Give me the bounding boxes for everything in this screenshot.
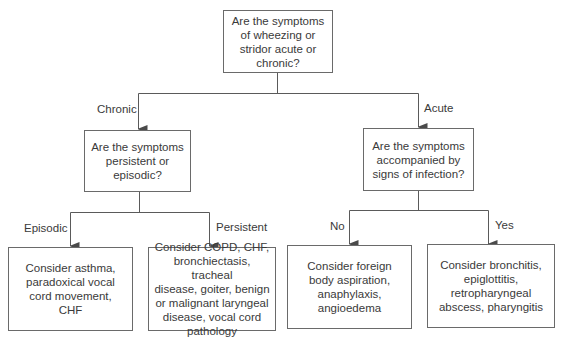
outcome-yes-infection-text: Consider bronchitis, epiglottitis, retro…	[439, 258, 543, 314]
root-question-text: Are the symptoms of wheezing or stridor …	[232, 14, 325, 70]
outcome-no-infection-box: Consider foreign body aspiration, anaphy…	[287, 245, 412, 329]
outcome-episodic-box: Consider asthma, paradoxical vocal cord …	[8, 247, 133, 331]
flowchart-canvas: Are the symptoms of wheezing or stridor …	[0, 0, 562, 340]
acute-question-box: Are the symptoms accompanied by signs of…	[363, 128, 474, 191]
root-question-box: Are the symptoms of wheezing or stridor …	[223, 10, 333, 73]
edge-label-yes: Yes	[495, 218, 514, 232]
outcome-no-infection-text: Consider foreign body aspiration, anaphy…	[307, 259, 391, 315]
edge-label-persistent: Persistent	[216, 220, 267, 234]
edge-label-no: No	[330, 219, 345, 233]
edge-label-chronic: Chronic	[97, 102, 137, 116]
outcome-episodic-text: Consider asthma, paradoxical vocal cord …	[25, 261, 115, 317]
outcome-persistent-text: Consider COPD, CHF, bronchiectasis, trac…	[153, 240, 271, 338]
chronic-question-box: Are the symptoms persistent or episodic?	[84, 130, 191, 192]
edge-label-episodic: Episodic	[24, 221, 67, 235]
edge-label-acute: Acute	[424, 101, 453, 115]
chronic-question-text: Are the symptoms persistent or episodic?	[91, 140, 184, 182]
outcome-yes-infection-box: Consider bronchitis, epiglottitis, retro…	[427, 244, 555, 328]
acute-question-text: Are the symptoms accompanied by signs of…	[372, 139, 465, 181]
outcome-persistent-box: Consider COPD, CHF, bronchiectasis, trac…	[148, 247, 276, 331]
